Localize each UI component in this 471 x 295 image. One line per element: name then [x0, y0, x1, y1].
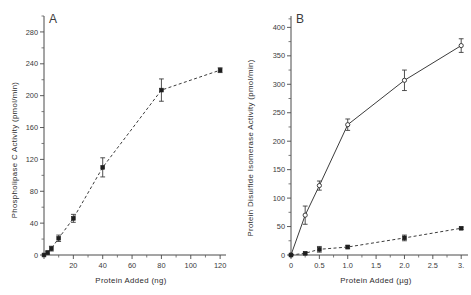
data-point-marker: [402, 78, 406, 82]
y-tick-label: 200: [26, 91, 38, 100]
x-tick-label: 3.: [458, 261, 464, 270]
figure-container: A Phospholipase C Activity (pmol/min) Pr…: [0, 0, 471, 295]
data-point-marker: [346, 123, 350, 127]
data-point-marker: [57, 236, 61, 240]
x-tick-label: 2.0: [399, 261, 409, 270]
panel-b-svg: B Protein Disulfide Isomerase Activity (…: [236, 0, 471, 295]
y-tick-label: 300: [273, 80, 285, 89]
y-tick-label: 120: [26, 155, 38, 164]
data-point-marker: [459, 226, 463, 230]
data-point-marker: [71, 216, 75, 220]
panel-b-ticks: [287, 19, 461, 259]
panel-b-y-axis-title: Protein Disulfide Isomerase Activity (pm…: [246, 59, 255, 236]
data-point-marker: [317, 247, 321, 251]
x-tick-label: 0.5: [314, 261, 324, 270]
y-tick-label: 0: [34, 251, 38, 260]
x-tick-label: 1.5: [371, 261, 381, 270]
data-point-marker: [49, 247, 53, 251]
data-point-marker: [346, 245, 350, 249]
panel-a-x-axis-title: Protein Added (ng): [95, 276, 166, 285]
series-line: [44, 70, 220, 255]
panel-a-series: [42, 68, 222, 257]
panel-b-letter: B: [296, 12, 305, 26]
data-point-marker: [303, 251, 307, 255]
y-tick-label: 250: [273, 108, 285, 117]
data-point-marker: [160, 88, 164, 92]
panel-a-ticks: [40, 16, 220, 259]
x-tick-label: 60: [128, 261, 136, 270]
y-tick-label: 350: [273, 51, 285, 60]
data-point-marker: [42, 253, 46, 257]
y-tick-label: 400: [273, 23, 285, 32]
panel-b-series: [289, 39, 464, 257]
series-line: [291, 228, 461, 255]
x-tick-label: 0: [289, 261, 293, 270]
data-point-marker: [101, 165, 105, 169]
data-point-marker: [459, 43, 463, 47]
y-tick-label: 160: [26, 123, 38, 132]
y-tick-label: 50: [277, 222, 285, 231]
y-tick-label: 240: [26, 59, 38, 68]
y-tick-label: 150: [273, 165, 285, 174]
chart-panel-a: A Phospholipase C Activity (pmol/min) Pr…: [0, 0, 236, 295]
x-tick-label: 2.5: [428, 261, 438, 270]
y-tick-label: 40: [30, 219, 38, 228]
x-tick-label: 100: [185, 261, 197, 270]
panel-a-tick-labels: 0408012016020024028020406080100120: [26, 28, 227, 270]
panel-a-y-axis-title: Phospholipase C Activity (pmol/min): [10, 82, 19, 219]
chart-panel-b: B Protein Disulfide Isomerase Activity (…: [236, 0, 471, 295]
x-tick-label: 1.0: [343, 261, 353, 270]
y-tick-label: 0: [281, 251, 285, 260]
data-point-marker: [317, 183, 321, 187]
data-point-marker: [403, 236, 407, 240]
x-tick-label: 40: [99, 261, 107, 270]
data-point-marker: [289, 253, 293, 257]
y-tick-label: 80: [30, 187, 38, 196]
x-tick-label: 20: [69, 261, 77, 270]
panel-a-svg: A Phospholipase C Activity (pmol/min) Pr…: [0, 0, 236, 295]
data-point-marker: [303, 213, 307, 217]
data-point-marker: [218, 68, 222, 72]
y-tick-label: 200: [273, 137, 285, 146]
panel-a-letter: A: [49, 12, 58, 26]
x-tick-label: 120: [214, 261, 226, 270]
panel-b-x-axis-title: Protein Added (µg): [340, 276, 412, 285]
y-tick-label: 280: [26, 28, 38, 37]
x-tick-label: 80: [157, 261, 165, 270]
series-line: [291, 46, 461, 255]
y-tick-label: 100: [273, 194, 285, 203]
